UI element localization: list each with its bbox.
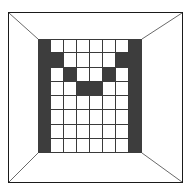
pixel-face-grid[interactable] bbox=[38, 39, 142, 153]
grid-cell-r5-c4[interactable] bbox=[90, 110, 103, 124]
grid-cell-r1-c0[interactable] bbox=[38, 53, 51, 67]
grid-cell-r2-c4[interactable] bbox=[90, 68, 103, 82]
grid-cell-r2-c2[interactable] bbox=[64, 68, 77, 82]
grid-cell-r5-c6[interactable] bbox=[116, 110, 129, 124]
grid-cell-r4-c7[interactable] bbox=[129, 96, 142, 110]
grid-cell-r3-c6[interactable] bbox=[116, 82, 129, 96]
grid-cell-r3-c5[interactable] bbox=[103, 82, 116, 96]
screenshot-canvas bbox=[0, 0, 192, 191]
grid-cell-r3-c1[interactable] bbox=[51, 82, 64, 96]
grid-cell-r0-c6[interactable] bbox=[116, 39, 129, 53]
grid-cell-r5-c5[interactable] bbox=[103, 110, 116, 124]
grid-cell-r7-c7[interactable] bbox=[129, 139, 142, 153]
grid-cell-r7-c4[interactable] bbox=[90, 139, 103, 153]
grid-cell-r7-c1[interactable] bbox=[51, 139, 64, 153]
grid-cell-r6-c1[interactable] bbox=[51, 125, 64, 139]
grid-cell-r3-c2[interactable] bbox=[64, 82, 77, 96]
grid-cell-r2-c0[interactable] bbox=[38, 68, 51, 82]
grid-cell-r6-c2[interactable] bbox=[64, 125, 77, 139]
grid-cell-r2-c6[interactable] bbox=[116, 68, 129, 82]
grid-cell-r1-c6[interactable] bbox=[116, 53, 129, 67]
grid-cell-r1-c5[interactable] bbox=[103, 53, 116, 67]
grid-cell-r4-c2[interactable] bbox=[64, 96, 77, 110]
grid-cell-r0-c4[interactable] bbox=[90, 39, 103, 53]
grid-cell-r2-c5[interactable] bbox=[103, 68, 116, 82]
grid-cell-r4-c1[interactable] bbox=[51, 96, 64, 110]
grid-cell-r3-c7[interactable] bbox=[129, 82, 142, 96]
grid-cell-r6-c5[interactable] bbox=[103, 125, 116, 139]
grid-cell-r0-c7[interactable] bbox=[129, 39, 142, 53]
grid-cell-r2-c7[interactable] bbox=[129, 68, 142, 82]
grid-cell-r7-c5[interactable] bbox=[103, 139, 116, 153]
grid-cell-r1-c2[interactable] bbox=[64, 53, 77, 67]
grid-cell-r0-c3[interactable] bbox=[77, 39, 90, 53]
grid-cell-r7-c6[interactable] bbox=[116, 139, 129, 153]
grid-cell-r1-c7[interactable] bbox=[129, 53, 142, 67]
grid-cell-r2-c3[interactable] bbox=[77, 68, 90, 82]
grid-cell-r3-c4[interactable] bbox=[90, 82, 103, 96]
grid-cell-r3-c0[interactable] bbox=[38, 82, 51, 96]
grid-cell-r0-c0[interactable] bbox=[38, 39, 51, 53]
grid-cell-r1-c4[interactable] bbox=[90, 53, 103, 67]
grid-cell-r5-c1[interactable] bbox=[51, 110, 64, 124]
grid-cell-r5-c2[interactable] bbox=[64, 110, 77, 124]
grid-cell-r2-c1[interactable] bbox=[51, 68, 64, 82]
grid-cell-r1-c3[interactable] bbox=[77, 53, 90, 67]
grid-cell-r0-c1[interactable] bbox=[51, 39, 64, 53]
grid-cell-r5-c0[interactable] bbox=[38, 110, 51, 124]
grid-cell-r6-c3[interactable] bbox=[77, 125, 90, 139]
grid-cell-r3-c3[interactable] bbox=[77, 82, 90, 96]
grid-cell-r0-c2[interactable] bbox=[64, 39, 77, 53]
grid-cell-r4-c3[interactable] bbox=[77, 96, 90, 110]
grid-cell-r6-c0[interactable] bbox=[38, 125, 51, 139]
grid-cell-r4-c4[interactable] bbox=[90, 96, 103, 110]
grid-cell-r4-c0[interactable] bbox=[38, 96, 51, 110]
grid-cell-r4-c5[interactable] bbox=[103, 96, 116, 110]
grid-cell-r5-c3[interactable] bbox=[77, 110, 90, 124]
grid-cell-r1-c1[interactable] bbox=[51, 53, 64, 67]
grid-cell-r6-c6[interactable] bbox=[116, 125, 129, 139]
grid-cell-r4-c6[interactable] bbox=[116, 96, 129, 110]
grid-cell-r5-c7[interactable] bbox=[129, 110, 142, 124]
grid-cell-r6-c4[interactable] bbox=[90, 125, 103, 139]
grid-cell-r0-c5[interactable] bbox=[103, 39, 116, 53]
grid-cell-r7-c0[interactable] bbox=[38, 139, 51, 153]
grid-cell-r7-c2[interactable] bbox=[64, 139, 77, 153]
grid-cell-r6-c7[interactable] bbox=[129, 125, 142, 139]
grid-cell-r7-c3[interactable] bbox=[77, 139, 90, 153]
